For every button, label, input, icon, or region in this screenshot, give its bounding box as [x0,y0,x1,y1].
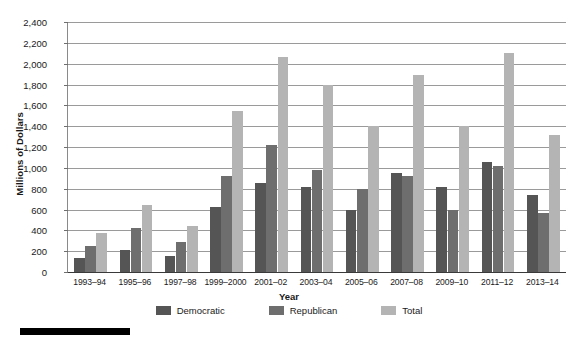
legend-label: Republican [290,306,338,316]
y-axis-tick-label: 2,200 [1,39,47,49]
bar-total [413,75,424,272]
bars-layer [68,22,566,272]
x-axis-tick-label: 2003–04 [293,277,338,287]
bar-democratic [255,183,266,272]
x-axis-tick-label: 1995–96 [112,277,157,287]
x-axis-tick-label: 2005–06 [339,277,384,287]
y-axis-tick-label: 2,400 [1,18,47,28]
bar-republican [493,166,504,272]
bar-republican [402,176,413,272]
bar-democratic [436,187,447,272]
x-axis-tick-label: 1997–98 [158,277,203,287]
bar-republican [312,170,323,272]
bar-total [187,226,198,272]
legend-swatch-icon [381,306,396,315]
bar-group [436,22,469,272]
y-axis-tick-label: 800 [1,185,47,195]
bar-democratic [210,207,221,272]
bar-republican [176,242,187,272]
bar-total [96,233,107,272]
bar-democratic [301,187,312,272]
bar-total [232,111,243,272]
bar-democratic [482,162,493,272]
bar-total [142,205,153,272]
y-axis-tick-label: 600 [1,206,47,216]
bar-democratic [74,258,85,272]
bar-democratic [391,173,402,272]
bar-group [120,22,153,272]
y-axis-tick-mark [64,272,68,273]
bar-group [74,22,107,272]
x-axis-tick-label: 2011–12 [474,277,519,287]
bar-republican [448,210,459,272]
bar-group [165,22,198,272]
legend-swatch-icon [269,306,284,315]
x-axis-tick-label: 2001–02 [248,277,293,287]
y-axis-tick-label: 0 [1,268,47,278]
bar-group [391,22,424,272]
y-axis-tick-label: 1,200 [1,143,47,153]
x-axis-title: Year [0,291,578,302]
legend-label: Total [402,306,422,316]
bar-total [459,126,470,272]
bar-group [346,22,379,272]
bar-group [301,22,334,272]
y-axis-tick-label: 1,600 [1,101,47,111]
bar-chart: Millions of Dollars 02004006008001,0001,… [0,0,578,344]
x-axis-tick-label: 1993–94 [67,277,112,287]
bar-group [255,22,288,272]
bar-total [549,135,560,273]
legend-item: Total [381,306,422,316]
bar-democratic [120,250,131,272]
legend-item: Democratic [156,306,225,316]
y-axis-tick-label: 200 [1,247,47,257]
y-axis-tick-label: 1,000 [1,164,47,174]
bar-republican [221,176,232,272]
y-axis-tick-label: 2,000 [1,60,47,70]
x-axis-tick-label: 2009–10 [429,277,474,287]
plot-area: 02004006008001,0001,2001,4001,6001,8002,… [67,22,566,273]
x-axis-tick-label: 1999–2000 [203,277,248,287]
bar-democratic [346,210,357,272]
bar-group [527,22,560,272]
x-axis-tick-label: 2007–08 [384,277,429,287]
footer-rule [20,328,130,335]
bar-republican [357,189,368,272]
bar-republican [538,213,549,272]
legend-label: Democratic [177,306,225,316]
y-axis-tick-label: 400 [1,226,47,236]
y-axis-tick-label: 1,800 [1,81,47,91]
bar-republican [266,145,277,272]
bar-democratic [527,195,538,272]
y-axis-tick-label: 1,400 [1,122,47,132]
bar-group [210,22,243,272]
bar-democratic [165,256,176,272]
bar-total [323,85,334,273]
bar-total [504,53,515,272]
legend-item: Republican [269,306,338,316]
legend-swatch-icon [156,306,171,315]
bar-total [368,126,379,272]
x-axis-tick-label: 2013–14 [520,277,565,287]
chart-legend: DemocraticRepublicanTotal [0,306,578,316]
bar-republican [131,228,142,272]
bar-group [482,22,515,272]
bar-total [278,57,289,272]
bar-republican [85,246,96,272]
